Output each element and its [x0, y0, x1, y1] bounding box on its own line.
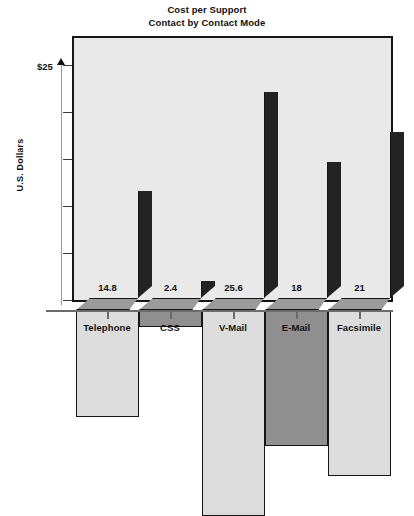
bar-top-face: [265, 298, 327, 310]
bar-front-face: [202, 310, 265, 516]
x-axis-tick: [107, 311, 109, 319]
x-axis-line: [46, 310, 393, 312]
bar-value-label: 14.8: [76, 282, 139, 293]
x-axis-tick: [233, 311, 235, 319]
bar-front-face: [328, 310, 391, 476]
y-axis-tick-label-top: $25: [37, 61, 53, 72]
x-axis-tick: [170, 311, 172, 319]
bar-value-label: 21: [328, 282, 391, 293]
chart-title-line-2: Contact by Contact Mode: [0, 17, 414, 30]
x-axis-tick: [296, 311, 298, 319]
bar-top-face: [328, 298, 390, 310]
bar-top-face: [202, 298, 264, 310]
y-axis-label: U.S. Dollars: [15, 120, 25, 210]
chart-title-line-1: Cost per Support: [0, 4, 414, 17]
plot-area: 14.8 2.4 25.6 18 21: [72, 36, 393, 302]
bar-value-label: 25.6: [202, 282, 265, 293]
bars-container: 14.8 2.4 25.6 18 21: [76, 40, 389, 298]
y-axis-line: [61, 63, 62, 305]
x-axis-tick: [359, 311, 361, 319]
bar-top-face: [76, 298, 138, 310]
bar-side-face: [390, 132, 404, 298]
bar-top-face: [139, 298, 201, 310]
bar-value-label: 2.4: [139, 282, 202, 293]
chart-title: Cost per Support Contact by Contact Mode: [0, 4, 414, 29]
bar-side-face: [327, 162, 341, 298]
bar-value-label: 18: [265, 282, 328, 293]
bar-side-face: [264, 92, 278, 298]
up-arrow-icon: [57, 58, 65, 65]
x-axis-label-facsimile: Facsimile: [315, 322, 403, 333]
